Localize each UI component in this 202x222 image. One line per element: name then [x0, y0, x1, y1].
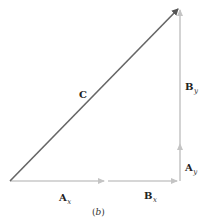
- label-ay: Ay: [184, 162, 198, 176]
- label-c: C: [79, 89, 87, 100]
- label-by: By: [185, 81, 199, 95]
- label-ax: Ax: [58, 192, 71, 206]
- arrow-c-icon: [10, 9, 178, 181]
- vector-diagram: C By Ay Ax Bx (b): [0, 0, 202, 222]
- figure-caption: (b): [92, 207, 105, 217]
- vector-c: [10, 9, 178, 181]
- label-bx: Bx: [144, 190, 157, 204]
